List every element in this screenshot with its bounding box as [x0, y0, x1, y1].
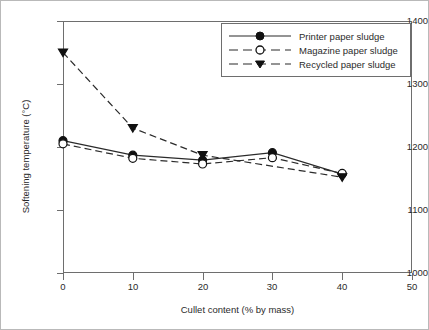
legend-label-printer-paper-sludge: Printer paper sludge	[294, 31, 385, 42]
chart-figure: 1400 1300 1200 1100 1000 0 10 20 30 40 5…	[0, 0, 429, 330]
legend-item-magazine-paper-sludge: Magazine paper sludge	[226, 43, 406, 57]
legend-label-magazine-paper-sludge: Magazine paper sludge	[294, 45, 398, 56]
data-point-1-0	[59, 140, 67, 148]
legend-marker-filled-circle	[226, 29, 294, 43]
legend-label-recycled-paper-sludge: Recycled paper sludge	[294, 59, 396, 70]
data-point-2-3	[338, 174, 347, 182]
legend-item-printer-paper-sludge: Printer paper sludge	[226, 29, 406, 43]
data-point-1-3	[268, 154, 276, 162]
legend-item-recycled-paper-sludge: Recycled paper sludge	[226, 57, 406, 71]
data-point-2-1	[128, 125, 137, 133]
legend-marker-open-circle	[226, 43, 294, 57]
legend: Printer paper sludge Magazine paper slud…	[221, 23, 411, 77]
data-point-1-2	[199, 160, 207, 168]
data-point-1-1	[129, 154, 137, 162]
legend-marker-filled-triangle-down	[226, 57, 294, 71]
